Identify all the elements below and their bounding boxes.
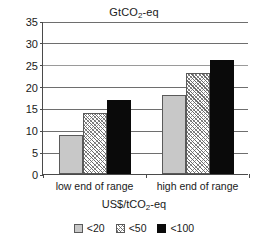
x-axis-title-pre: US$/tCO bbox=[102, 198, 146, 210]
y-axis-tick-label: 20 bbox=[26, 82, 38, 94]
y-axis-tick-mark bbox=[40, 153, 43, 154]
gridline bbox=[43, 22, 248, 23]
legend-swatch-icon bbox=[116, 224, 125, 233]
y-axis-tick-mark bbox=[40, 22, 43, 23]
chart-title-pre: GtCO bbox=[109, 6, 138, 18]
plot-area: 35302520151050low end of rangehigh end o… bbox=[42, 22, 248, 175]
x-axis-tick-mark bbox=[43, 174, 44, 178]
bar-low-end-of-range-lt100 bbox=[107, 100, 131, 174]
bar-low-end-of-range-lt50 bbox=[83, 113, 107, 174]
x-axis-title: US$/tCO2-eq bbox=[0, 198, 268, 212]
x-axis-title-post: -eq bbox=[150, 198, 166, 210]
y-axis-tick-label: 5 bbox=[32, 147, 38, 159]
x-axis-tick-mark bbox=[146, 174, 147, 178]
bar-high-end-of-range-lt100 bbox=[210, 60, 234, 174]
x-axis-category-label: high end of range bbox=[157, 180, 239, 192]
x-axis-tick-mark bbox=[249, 174, 250, 178]
y-axis-tick-label: 15 bbox=[26, 103, 38, 115]
legend-item-label: <50 bbox=[129, 222, 147, 234]
chart-title: GtCO2-eq bbox=[0, 6, 268, 20]
y-axis-tick-label: 25 bbox=[26, 60, 38, 72]
legend-item-label: <20 bbox=[87, 222, 105, 234]
legend-swatch-icon bbox=[74, 224, 83, 233]
legend-swatch-icon bbox=[157, 224, 166, 233]
legend-item-label: <100 bbox=[170, 222, 194, 234]
y-axis-tick-mark bbox=[40, 43, 43, 44]
y-axis-tick-mark bbox=[40, 87, 43, 88]
bar-chart: GtCO2-eq 35302520151050low end of rangeh… bbox=[0, 0, 268, 244]
legend-item[interactable]: <50 bbox=[116, 222, 147, 234]
bar-low-end-of-range-lt20 bbox=[59, 135, 83, 174]
gridline bbox=[43, 43, 248, 44]
bar-high-end-of-range-lt20 bbox=[162, 95, 186, 174]
y-axis-tick-label: 10 bbox=[26, 125, 38, 137]
y-axis-tick-mark bbox=[40, 65, 43, 66]
y-axis-tick-mark bbox=[40, 131, 43, 132]
y-axis-tick-mark bbox=[40, 109, 43, 110]
legend-item[interactable]: <20 bbox=[74, 222, 105, 234]
chart-title-post: -eq bbox=[142, 6, 158, 18]
y-axis-tick-label: 30 bbox=[26, 38, 38, 50]
legend-item[interactable]: <100 bbox=[157, 222, 194, 234]
y-axis-tick-label: 35 bbox=[26, 16, 38, 28]
y-axis-tick-label: 0 bbox=[32, 169, 38, 181]
chart-legend: <20<50<100 bbox=[0, 222, 268, 234]
bar-high-end-of-range-lt50 bbox=[186, 73, 210, 174]
x-axis-category-label: low end of range bbox=[56, 180, 134, 192]
